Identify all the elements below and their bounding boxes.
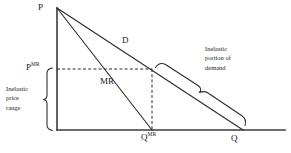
economics-diagram: P Q PMR QMR D MR Inelastic price range I…: [0, 0, 291, 153]
inelastic-price-range-annotation: Inelastic price range: [6, 84, 28, 112]
price-axis-label: P: [38, 2, 43, 12]
price-mr-superscript: MR: [31, 61, 40, 67]
inelastic-price-range-line-3: range: [6, 103, 28, 112]
price-mr-label: PMR: [26, 61, 40, 72]
inelastic-price-range-line-1: Inelastic: [6, 84, 28, 93]
marginal-revenue-curve-label: MR: [100, 76, 114, 86]
inelastic-price-range-line-2: price: [6, 93, 28, 102]
inelastic-portion-brace: [156, 64, 246, 126]
demand-curve-label: D: [122, 35, 129, 45]
quantity-mr-superscript: MR: [148, 131, 157, 137]
inelastic-portion-of-demand-annotation: Inelastic portion of demand: [205, 44, 231, 72]
inelastic-price-range-brace: [44, 68, 53, 131]
mr-text: MR: [100, 76, 114, 86]
inelastic-portion-line-1: Inelastic: [205, 44, 231, 53]
inelastic-portion-line-3: demand: [205, 63, 231, 72]
inelastic-portion-line-2: portion of: [205, 53, 231, 62]
quantity-axis-label: Q: [231, 133, 238, 143]
quantity-mr-label: QMR: [141, 131, 156, 142]
